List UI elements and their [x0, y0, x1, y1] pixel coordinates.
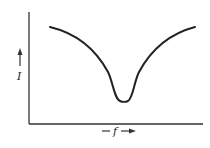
- x-label-text: f: [112, 125, 119, 138]
- y-axis-label: I: [16, 48, 23, 83]
- chart: I f: [0, 0, 210, 148]
- x-axis-label: f: [102, 125, 136, 138]
- data-curve: [50, 27, 195, 102]
- up-arrow-icon: [18, 48, 23, 55]
- chart-svg: I f: [0, 0, 210, 148]
- right-arrow-icon: [129, 129, 136, 134]
- y-label-text: I: [16, 70, 22, 83]
